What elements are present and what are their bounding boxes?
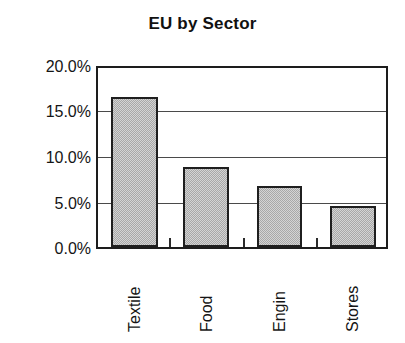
x-axis-category-labels: Textile Food Engin Stores	[0, 0, 405, 343]
x-label-stores: Stores	[345, 286, 361, 332]
x-label-food: Food	[199, 296, 215, 332]
x-label-textile: Textile	[127, 287, 143, 332]
x-label-engin: Engin	[272, 291, 288, 332]
chart-container: EU by Sector 20.0% 15.0% 10.0% 5.0% 0.0%…	[0, 0, 405, 343]
